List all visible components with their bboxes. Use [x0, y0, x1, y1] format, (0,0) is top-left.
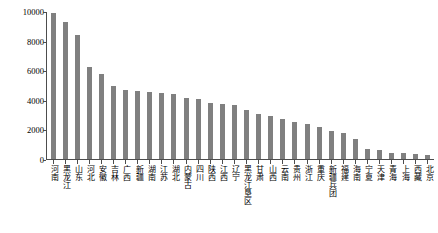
- x-tick-slot: [47, 160, 59, 164]
- x-axis-tick-mark: [137, 160, 138, 164]
- x-tick-slot: [398, 160, 410, 164]
- bar: [425, 155, 430, 159]
- y-axis-tick-mark: [43, 12, 46, 13]
- x-label-slot: 西藏: [410, 165, 422, 231]
- x-axis-tick-marks: [47, 160, 434, 164]
- bar: [389, 153, 394, 159]
- bar-slot: [374, 12, 386, 159]
- x-tick-slot: [289, 160, 301, 164]
- x-tick-slot: [95, 160, 107, 164]
- bar: [329, 131, 334, 159]
- x-axis-tick-mark: [77, 160, 78, 164]
- bar-slot: [301, 12, 313, 159]
- x-axis-category-label: 北京: [424, 165, 433, 181]
- x-label-slot: 福建: [337, 165, 349, 231]
- x-axis-category-label: 湖北: [170, 165, 179, 181]
- x-tick-slot: [386, 160, 398, 164]
- x-label-slot: 广西: [120, 165, 132, 231]
- bar: [280, 119, 285, 159]
- bar-slot: [241, 12, 253, 159]
- bar-slot: [253, 12, 265, 159]
- bar: [341, 133, 346, 159]
- x-axis-tick-mark: [186, 160, 187, 164]
- x-axis-tick-mark: [415, 160, 416, 164]
- x-axis-tick-mark: [282, 160, 283, 164]
- x-label-slot: 青海: [386, 165, 398, 231]
- x-tick-slot: [168, 160, 180, 164]
- x-label-slot: 浙江: [301, 165, 313, 231]
- bar-chart: 籽粒产量（万t） 1000080006000400020000 河南黑龙江山东河…: [0, 0, 438, 233]
- x-axis-tick-mark: [258, 160, 259, 164]
- x-axis-tick-mark: [198, 160, 199, 164]
- x-axis-tick-mark: [53, 160, 54, 164]
- x-axis-tick-mark: [270, 160, 271, 164]
- x-axis-category-label: 辽宁: [230, 165, 239, 181]
- x-axis-category-label: 西藏: [412, 165, 421, 181]
- x-label-slot: 贵州: [289, 165, 301, 231]
- x-axis-tick-mark: [65, 160, 66, 164]
- x-axis-tick-mark: [367, 160, 368, 164]
- x-axis-tick-mark: [89, 160, 90, 164]
- y-axis-tick-label: 2000: [16, 126, 44, 135]
- bar: [196, 99, 201, 159]
- x-axis-category-label: 新疆兵团: [327, 165, 336, 197]
- x-axis-category-label: 新疆: [133, 165, 142, 181]
- x-label-slot: 重庆: [313, 165, 325, 231]
- x-label-slot: 宁夏: [361, 165, 373, 231]
- x-label-slot: 北京: [422, 165, 434, 231]
- x-axis-category-label: 安徽: [97, 165, 106, 181]
- y-axis-tick-label: 8000: [16, 37, 44, 46]
- bar: [171, 94, 176, 159]
- x-axis-category-label: 浙江: [303, 165, 312, 181]
- x-axis-tick-mark: [246, 160, 247, 164]
- x-tick-slot: [216, 160, 228, 164]
- x-axis-tick-mark: [234, 160, 235, 164]
- x-label-slot: 四川: [192, 165, 204, 231]
- bar-slot: [168, 12, 180, 159]
- x-axis-tick-mark: [173, 160, 174, 164]
- x-axis-category-label: 黑龙江: [61, 165, 70, 189]
- x-tick-slot: [325, 160, 337, 164]
- x-axis-category-label: 天津: [375, 165, 384, 181]
- x-axis-tick-mark: [343, 160, 344, 164]
- bar-slot: [47, 12, 59, 159]
- x-tick-slot: [422, 160, 434, 164]
- x-tick-slot: [107, 160, 119, 164]
- x-axis-tick-mark: [125, 160, 126, 164]
- bar: [135, 91, 140, 159]
- x-tick-slot: [204, 160, 216, 164]
- bar-slot: [156, 12, 168, 159]
- x-axis-tick-mark: [113, 160, 114, 164]
- x-axis-category-label: 重庆: [315, 165, 324, 181]
- x-axis-tick-mark: [210, 160, 211, 164]
- x-label-slot: 河南: [47, 165, 59, 231]
- x-axis-category-label: 河南: [49, 165, 58, 181]
- bar: [292, 122, 297, 159]
- x-label-slot: 湖北: [168, 165, 180, 231]
- bar: [377, 150, 382, 159]
- x-tick-slot: [337, 160, 349, 164]
- x-tick-slot: [349, 160, 361, 164]
- x-axis-tick-mark: [391, 160, 392, 164]
- x-axis-tick-mark: [403, 160, 404, 164]
- bar: [244, 110, 249, 159]
- x-label-slot: 甘肃: [253, 165, 265, 231]
- x-axis-tick-mark: [331, 160, 332, 164]
- bar-slot: [216, 12, 228, 159]
- x-tick-slot: [228, 160, 240, 164]
- bar: [232, 105, 237, 159]
- x-axis-category-label: 海南: [351, 165, 360, 181]
- bar: [75, 35, 80, 159]
- x-label-slot: 天津: [374, 165, 386, 231]
- x-label-slot: 云南: [277, 165, 289, 231]
- x-tick-slot: [253, 160, 265, 164]
- x-axis-tick-mark: [294, 160, 295, 164]
- x-label-slot: 陕西: [204, 165, 216, 231]
- bar-slot: [144, 12, 156, 159]
- x-label-slot: 山西: [265, 165, 277, 231]
- x-axis-category-label: 福建: [339, 165, 348, 181]
- y-axis-tick-label: 6000: [16, 67, 44, 76]
- plot-area: [46, 12, 434, 160]
- bar-slot: [313, 12, 325, 159]
- x-tick-slot: [361, 160, 373, 164]
